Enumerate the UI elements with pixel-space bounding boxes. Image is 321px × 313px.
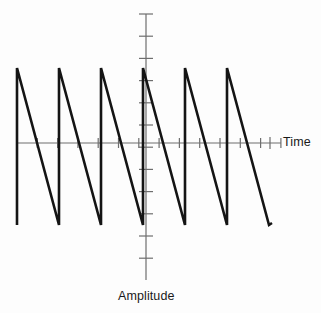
x-axis-label: Time bbox=[283, 135, 311, 149]
waveform-figure: Time Amplitude bbox=[0, 0, 321, 313]
sawtooth-plot bbox=[0, 0, 321, 313]
y-axis-label: Amplitude bbox=[118, 289, 175, 303]
y-axis-group bbox=[139, 14, 153, 280]
sawtooth-waveform bbox=[17, 68, 272, 225]
